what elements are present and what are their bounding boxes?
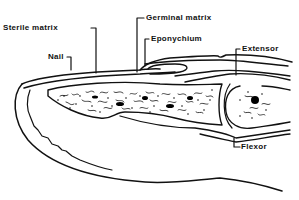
label-nail: Nail xyxy=(48,53,64,61)
fingertip-diagram: Sterile matrix Germinal matrix Nail Epon… xyxy=(0,0,299,200)
label-extensor: Extensor xyxy=(242,45,279,53)
label-eponychium: Eponychium xyxy=(151,35,202,43)
label-germinal-matrix: Germinal matrix xyxy=(146,14,211,22)
nail-plate xyxy=(22,69,175,88)
label-sterile-matrix: Sterile matrix xyxy=(3,24,58,32)
finger-inner-contour xyxy=(27,90,112,170)
label-flexor: Flexor xyxy=(241,143,267,151)
middle-phalanx-head xyxy=(226,86,290,128)
joint-capsule-line xyxy=(185,74,290,82)
flexor-tendon xyxy=(120,116,290,142)
dorsal-tissue-line xyxy=(175,70,290,76)
bone-texture xyxy=(60,91,270,115)
